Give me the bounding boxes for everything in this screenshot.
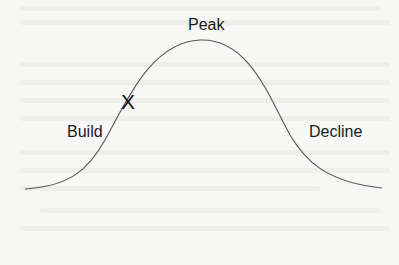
decline-label: Decline xyxy=(309,124,362,140)
build-label: Build xyxy=(67,124,103,140)
diagram-page: Peak Build Decline X xyxy=(0,0,399,265)
peak-label: Peak xyxy=(188,17,224,33)
curve-line xyxy=(25,40,382,189)
x-marker-icon: X xyxy=(121,91,135,112)
